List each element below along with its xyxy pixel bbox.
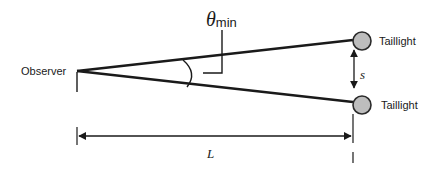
sight-line-bottom — [77, 71, 353, 102]
taillight-top-label: Taillight — [379, 35, 416, 47]
theta-leader-line — [203, 30, 222, 73]
taillight-bottom-label: Taillight — [381, 99, 418, 111]
distance-label: L — [206, 146, 214, 161]
taillight-bottom-icon — [353, 96, 371, 114]
sight-line-top — [77, 40, 353, 71]
observer-label: Observer — [21, 65, 67, 77]
angular-resolution-diagram: θmin Observer s Taillight Taillight L — [0, 0, 445, 179]
theta-min-label: θmin — [206, 8, 237, 30]
taillight-top-icon — [353, 32, 371, 50]
separation-label: s — [360, 67, 365, 82]
